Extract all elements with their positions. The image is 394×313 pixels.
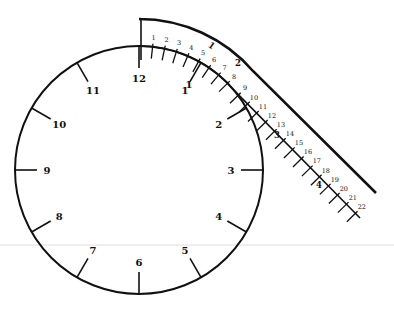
fine-label: 13 [277, 121, 285, 129]
fine-tick [293, 157, 304, 168]
hour-label: 5 [182, 245, 189, 256]
fine-tick [302, 166, 313, 177]
hour-label: 6 [136, 257, 143, 268]
fine-label: 5 [201, 49, 205, 57]
tape-outer-edge [139, 19, 376, 193]
tape-inner-edge [139, 46, 360, 218]
hour-label: 3 [228, 165, 235, 176]
hour-label: 11 [86, 85, 100, 96]
fine-tick [211, 73, 221, 84]
hour-label: 4 [215, 211, 222, 222]
hour-label: 10 [52, 119, 66, 130]
tape-fine-labels: 12345678910111213141516171819202122 [152, 34, 366, 211]
fine-label: 17 [313, 157, 321, 165]
fine-label: 18 [322, 167, 330, 175]
fine-label: 20 [340, 185, 348, 193]
fine-label: 15 [295, 139, 303, 147]
hour-label: 9 [44, 165, 51, 176]
fine-label: 8 [232, 73, 236, 81]
hour-tick [77, 258, 88, 277]
fine-tick [257, 120, 268, 131]
hour-tick [77, 63, 88, 82]
fine-label: 19 [331, 176, 339, 184]
hour-tick [227, 221, 246, 232]
fine-label: 3 [177, 39, 181, 47]
hour-label: 2 [215, 119, 222, 130]
fine-label: 2 [164, 36, 168, 44]
hour-label: 8 [56, 211, 63, 222]
coarse-label: 1 [186, 79, 193, 90]
hour-label: 7 [90, 245, 97, 256]
hour-tick [227, 108, 246, 119]
fine-label: 22 [358, 203, 366, 211]
hour-label: 12 [132, 73, 146, 84]
fine-label: 10 [250, 94, 258, 102]
fine-tick [219, 81, 230, 91]
fine-label: 6 [212, 56, 216, 64]
fine-label: 7 [222, 64, 226, 72]
fine-label: 12 [268, 112, 276, 120]
fine-tick [284, 147, 295, 158]
fine-label: 21 [349, 194, 357, 202]
tape-fine-ticks [151, 44, 357, 222]
fine-label: 11 [259, 103, 267, 111]
coarse-label: 4 [316, 180, 322, 190]
fine-label: 1 [152, 34, 156, 42]
fine-label: 4 [189, 44, 193, 52]
fine-label: 14 [286, 130, 294, 138]
hour-tick [190, 258, 201, 277]
clock-tape-diagram: 121234567891011 123456789101112131415161… [0, 0, 394, 313]
coarse-label: 2 [235, 58, 241, 68]
hour-labels: 121234567891011 [44, 73, 235, 268]
fine-label: 9 [243, 84, 247, 92]
fine-label: 16 [304, 148, 312, 156]
coarse-label: 3 [274, 130, 280, 140]
hour-tick [32, 108, 51, 119]
hour-tick [32, 221, 51, 232]
coarse-label: 1 [206, 40, 217, 52]
fine-tick [329, 193, 340, 204]
fine-tick [338, 202, 349, 213]
fine-tick [347, 211, 358, 222]
